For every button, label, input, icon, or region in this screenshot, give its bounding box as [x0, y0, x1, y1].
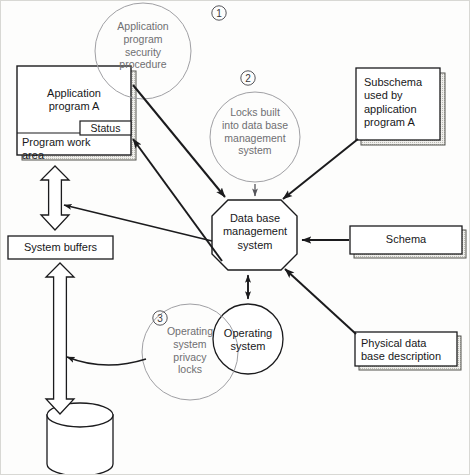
diagram-canvas: Application program A Status Program wor… [0, 0, 470, 475]
circle-number-2-icon: 2 [240, 70, 256, 86]
storage-cylinder-node [47, 403, 113, 475]
diagram-artwork [0, 0, 470, 475]
annotation-number-2: 2 [240, 70, 256, 86]
svg-text:3: 3 [157, 313, 163, 324]
annotation-number-3: 3 [152, 310, 168, 326]
hollow-arrow-buffers-storage [46, 263, 74, 414]
application-program-node [17, 66, 136, 160]
annotation-circle-1 [95, 3, 191, 99]
subschema-node [356, 68, 445, 145]
circle-number-3-icon: 3 [152, 310, 168, 326]
physical-db-description-node [355, 332, 461, 370]
annotation-number-1: 1 [211, 5, 227, 21]
svg-text:2: 2 [245, 73, 251, 84]
svg-text:1: 1 [216, 8, 222, 19]
circle-number-1-icon: 1 [211, 5, 227, 21]
system-buffers-node [8, 236, 113, 259]
schema-node [350, 226, 466, 258]
arrow-subschema-to-dbms [283, 139, 358, 199]
annotation-circle-2 [210, 92, 300, 182]
arrow-dbms-to-program [133, 139, 222, 261]
arrow-annotation3-to-storage-path [67, 357, 146, 365]
arrow-program-to-dbms [133, 85, 225, 197]
arrow-physdb-to-dbms [285, 269, 356, 334]
operating-system-node [213, 304, 283, 374]
hollow-arrow-program-buffers [41, 166, 69, 230]
dbms-octagon-node [212, 200, 297, 270]
